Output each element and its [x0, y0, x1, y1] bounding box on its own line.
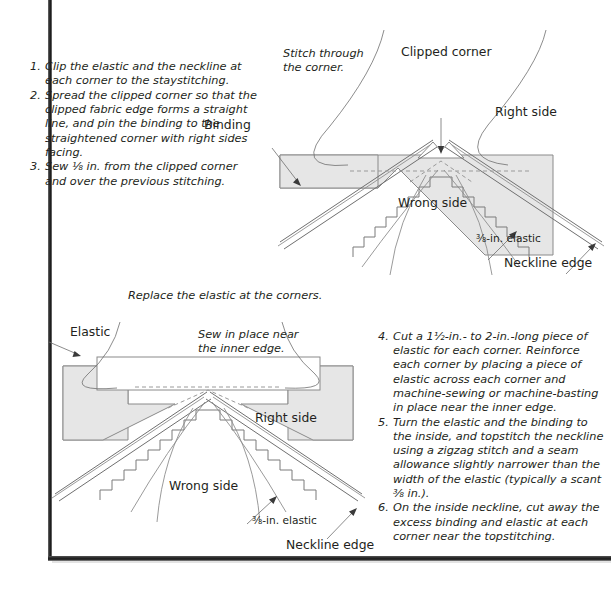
- corner-fold-dashed-right: [208, 390, 248, 408]
- label-neckline-edge-top: Neckline edge: [504, 256, 592, 270]
- label-wrong-side-bottom: Wrong side: [169, 479, 238, 493]
- label-right-side-top: Right side: [495, 105, 557, 119]
- label-binding: Binding: [204, 118, 251, 132]
- list-item-text: On the inside neckline, cut away the exc…: [393, 501, 606, 544]
- list-item-text: Sew ⅛ in. from the clipped corner and ov…: [45, 160, 262, 188]
- list-item: 5. Turn the elastic and the binding to t…: [378, 416, 606, 501]
- label-neckline-edge-bottom: Neckline edge: [286, 538, 374, 552]
- instruction-list-bottom: 4. Cut a 1½-in.- to 2-in.-long piece of …: [378, 330, 606, 545]
- elastic-label-arrowhead: [73, 351, 82, 357]
- list-item: 3. Sew ⅛ in. from the clipped corner and…: [30, 160, 262, 188]
- list-item: 1. Clip the elastic and the neckline at …: [30, 60, 262, 88]
- label-elastic-bottom: ⅜-in. elastic: [252, 514, 317, 527]
- list-item-number: 3.: [30, 160, 41, 174]
- elastic-strip: [97, 357, 320, 390]
- list-item-text: Turn the elastic and the binding to the …: [393, 416, 606, 501]
- page-frame-bottom-shadow: [52, 561, 611, 563]
- list-item: 4. Cut a 1½-in.- to 2-in.-long piece of …: [378, 330, 606, 415]
- caption-stitch-through-corner: Stitch through the corner.: [283, 47, 383, 75]
- label-clipped-corner: Clipped corner: [401, 45, 492, 59]
- caption-sew-in-place: Sew in place near the inner edge.: [198, 328, 318, 356]
- caption-replace-elastic: Replace the elastic at the corners.: [128, 289, 322, 303]
- label-elastic-strip: Elastic: [70, 325, 110, 339]
- list-item: 6. On the inside neckline, cut away the …: [378, 501, 606, 544]
- label-right-side-bottom: Right side: [255, 411, 317, 425]
- neckline-leader-line-b: [327, 512, 353, 539]
- list-item-text: Clip the elastic and the neckline at eac…: [45, 60, 262, 88]
- list-item-text: Cut a 1½-in.- to 2-in.-long piece of ela…: [393, 330, 606, 415]
- label-elastic-top: ⅜-in. elastic: [476, 232, 541, 245]
- label-wrong-side-top: Wrong side: [398, 196, 467, 210]
- list-item-number: 1.: [30, 60, 41, 74]
- elastic-leader-line-b: [49, 342, 77, 354]
- list-item-number: 2.: [30, 89, 41, 103]
